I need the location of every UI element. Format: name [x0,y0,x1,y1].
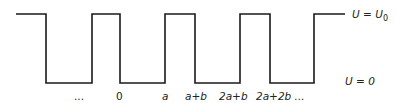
x-label-a-plus-b: a+b [185,90,207,102]
high-level-subscript: 0 [383,14,388,23]
x-label-a: a [162,90,168,102]
x-label-ellipsis-left: ... [74,90,84,102]
x-label-2a-plus-b: 2a+b [219,90,248,102]
x-label-zero: 0 [116,90,123,102]
high-level-text: U = U [352,8,383,20]
square-wave-potential [16,14,345,83]
label-low-level: U = 0 [345,75,375,87]
potential-diagram: ... 0 a a+b 2a+b 2a+2b ... U = U 0 U = 0 [0,0,395,103]
x-label-2a-plus-2b: 2a+2b ... [256,90,305,102]
label-high-level: U = U 0 [352,8,388,23]
